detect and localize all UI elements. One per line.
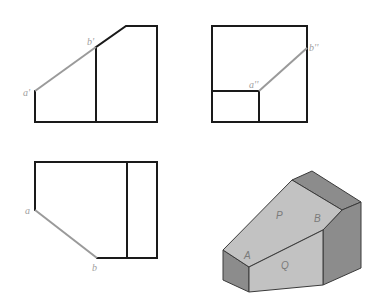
iso-label-B: B bbox=[314, 213, 321, 224]
front-label-a: a' bbox=[23, 87, 31, 98]
top-view-outline bbox=[35, 162, 157, 258]
top-view: a b bbox=[25, 162, 157, 273]
top-label-a: a bbox=[25, 205, 30, 216]
front-view: a' b' bbox=[23, 26, 157, 122]
iso-label-A: A bbox=[243, 250, 251, 261]
side-view: a'' b'' bbox=[212, 26, 319, 122]
iso-label-Q: Q bbox=[281, 260, 289, 271]
iso-label-P: P bbox=[276, 210, 283, 221]
side-view-line-ab bbox=[259, 48, 307, 91]
side-label-a: a'' bbox=[249, 79, 259, 90]
front-view-line-ab bbox=[35, 47, 96, 91]
side-view-inner-rect bbox=[212, 91, 259, 122]
top-label-b: b bbox=[92, 262, 97, 273]
front-label-b: b' bbox=[87, 36, 95, 47]
top-view-line-ab bbox=[35, 210, 97, 258]
side-label-b: b'' bbox=[309, 42, 319, 53]
isometric-view: P B A Q bbox=[223, 171, 361, 292]
orthographic-projection-diagram: a' b' a'' b'' a b P B A Q bbox=[0, 0, 380, 308]
